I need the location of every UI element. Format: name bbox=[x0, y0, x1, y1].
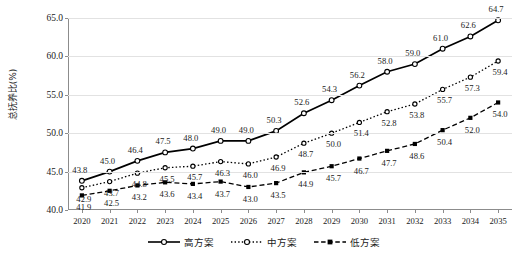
y-tick-mark bbox=[65, 95, 68, 96]
data-label: 43.0 bbox=[243, 194, 258, 204]
data-point bbox=[274, 181, 278, 185]
data-point bbox=[385, 69, 390, 74]
y-tick-label: 55.0 bbox=[29, 90, 63, 100]
data-label: 43.5 bbox=[271, 190, 286, 200]
data-label: 43.8 bbox=[72, 165, 87, 175]
data-label: 54.0 bbox=[493, 109, 508, 119]
data-point bbox=[496, 59, 500, 63]
data-point bbox=[191, 182, 195, 186]
data-label: 49.0 bbox=[239, 125, 254, 135]
chart-legend: 高方案 中方案 低方案 bbox=[0, 231, 526, 253]
x-tick-mark bbox=[221, 210, 222, 213]
data-label: 46.3 bbox=[215, 168, 230, 178]
x-tick-mark bbox=[332, 210, 333, 213]
y-tick-mark bbox=[65, 172, 68, 173]
gridline bbox=[68, 18, 512, 19]
data-label: 64.7 bbox=[489, 4, 504, 14]
data-point bbox=[80, 186, 84, 190]
data-point bbox=[468, 34, 473, 39]
dependency-ratio-line-chart: 总抚养比(%) 40.045.050.055.060.065.020202021… bbox=[0, 0, 526, 253]
x-tick-mark bbox=[137, 210, 138, 213]
data-point bbox=[496, 100, 500, 104]
data-point bbox=[163, 150, 168, 155]
data-label: 44.8 bbox=[132, 179, 147, 189]
legend-item-high[interactable]: 高方案 bbox=[147, 235, 214, 249]
data-label: 43.6 bbox=[160, 189, 175, 199]
data-label: 43.2 bbox=[132, 192, 147, 202]
data-label: 45.7 bbox=[187, 172, 202, 182]
data-point bbox=[330, 164, 334, 168]
data-label: 53.8 bbox=[409, 110, 424, 120]
y-tick-mark bbox=[65, 133, 68, 134]
data-point bbox=[246, 162, 250, 166]
data-label: 47.7 bbox=[382, 158, 397, 168]
data-point bbox=[385, 110, 389, 114]
x-tick-mark bbox=[498, 210, 499, 213]
data-label: 57.3 bbox=[465, 83, 480, 93]
data-label: 61.0 bbox=[433, 33, 448, 43]
data-label: 46.4 bbox=[128, 145, 143, 155]
data-point bbox=[246, 138, 251, 143]
data-label: 45.0 bbox=[100, 156, 115, 166]
plot-area: 40.045.050.055.060.065.02020202120222023… bbox=[68, 18, 512, 210]
legend-label-high: 高方案 bbox=[184, 235, 214, 249]
data-label: 59.0 bbox=[405, 48, 420, 58]
legend-item-low[interactable]: 低方案 bbox=[313, 235, 380, 249]
y-tick-label: 60.0 bbox=[29, 51, 63, 61]
data-label: 52.0 bbox=[465, 125, 480, 135]
data-point bbox=[190, 146, 195, 151]
y-tick-label: 45.0 bbox=[29, 167, 63, 177]
legend-glyph-solid-line bbox=[147, 237, 181, 247]
gridline bbox=[68, 56, 512, 57]
data-point bbox=[385, 149, 389, 153]
data-label: 58.0 bbox=[378, 56, 393, 66]
x-tick-mark bbox=[387, 210, 388, 213]
data-point bbox=[441, 87, 445, 91]
legend-glyph-dashed-line bbox=[313, 237, 347, 247]
data-point bbox=[135, 158, 140, 163]
data-label: 51.4 bbox=[354, 128, 369, 138]
x-tick-mark bbox=[276, 210, 277, 213]
y-axis-title: 总抚养比(%) bbox=[6, 50, 19, 140]
data-point bbox=[274, 155, 278, 159]
data-label: 50.0 bbox=[326, 139, 341, 149]
y-tick-mark bbox=[65, 56, 68, 57]
x-tick-mark bbox=[193, 210, 194, 213]
x-tick-mark bbox=[359, 210, 360, 213]
data-label: 49.0 bbox=[211, 125, 226, 135]
series-line-1 bbox=[82, 20, 498, 181]
data-label: 52.8 bbox=[382, 118, 397, 128]
data-label: 43.7 bbox=[215, 189, 230, 199]
legend-label-low: 低方案 bbox=[350, 235, 380, 249]
data-label: 52.6 bbox=[294, 97, 309, 107]
y-tick-mark bbox=[65, 210, 68, 211]
data-point bbox=[191, 164, 195, 168]
legend-label-medium: 中方案 bbox=[267, 235, 297, 249]
data-label: 62.6 bbox=[461, 20, 476, 30]
x-tick-mark bbox=[415, 210, 416, 213]
gridline bbox=[68, 172, 512, 173]
x-tick-label: 2035 bbox=[481, 216, 515, 226]
data-point bbox=[357, 156, 361, 160]
data-point bbox=[218, 138, 223, 143]
x-tick-mark bbox=[443, 210, 444, 213]
data-label: 55.7 bbox=[437, 95, 452, 105]
data-label: 47.5 bbox=[156, 136, 171, 146]
data-point bbox=[329, 98, 334, 103]
data-point bbox=[412, 62, 417, 67]
data-label: 45.5 bbox=[160, 174, 175, 184]
x-tick-mark bbox=[110, 210, 111, 213]
data-point bbox=[246, 185, 250, 189]
legend-item-medium[interactable]: 中方案 bbox=[230, 235, 297, 249]
data-label: 43.7 bbox=[104, 188, 119, 198]
data-label: 48.0 bbox=[183, 133, 198, 143]
data-point bbox=[413, 142, 417, 146]
data-label: 56.2 bbox=[350, 70, 365, 80]
data-point bbox=[357, 83, 362, 88]
data-point bbox=[440, 46, 445, 51]
data-label: 48.6 bbox=[409, 151, 424, 161]
data-point bbox=[108, 179, 112, 183]
x-tick-mark bbox=[248, 210, 249, 213]
data-label: 48.7 bbox=[298, 149, 313, 159]
y-tick-label: 65.0 bbox=[29, 13, 63, 23]
